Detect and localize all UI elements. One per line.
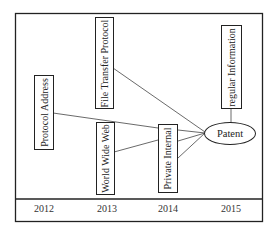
edge-file-transfer-protocol-patent — [113, 68, 205, 132]
node-protocol-address: Protocol Address — [34, 75, 54, 150]
node-label: World Wide Web — [100, 124, 111, 193]
year-label-2015: 2015 — [211, 203, 251, 214]
edge-world-wide-web-private-internal — [114, 140, 158, 152]
node-file-transfer-protocol: File Transfer Protocol — [95, 17, 114, 109]
node-label: Patent — [217, 128, 243, 139]
node-label: Private Internal — [163, 128, 174, 190]
year-label-2012: 2012 — [24, 203, 64, 214]
timeline-diagram: Protocol Address File Transfer Protocol … — [0, 0, 274, 234]
node-label: File Transfer Protocol — [99, 19, 110, 107]
node-world-wide-web: World Wide Web — [96, 122, 115, 195]
year-label-2013: 2013 — [87, 203, 127, 214]
edge-private-internal-patent-1 — [178, 130, 205, 133]
node-private-internal: Private Internal — [158, 124, 178, 193]
node-label: regular Information — [226, 28, 237, 107]
node-label: Protocol Address — [39, 78, 50, 147]
node-regular-information: regular Information — [221, 25, 242, 109]
year-label-2014: 2014 — [148, 203, 188, 214]
node-patent: Patent — [204, 122, 256, 145]
